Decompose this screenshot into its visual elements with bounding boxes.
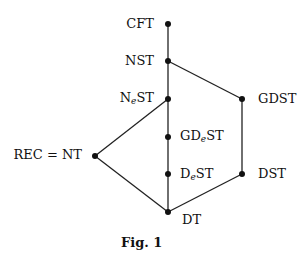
figure-caption: Fig. 1 xyxy=(121,235,162,250)
node-label-dst: DST xyxy=(258,167,286,181)
label-part: D xyxy=(180,166,190,181)
label-part: N xyxy=(120,90,131,105)
node-label-gdst: GDST xyxy=(258,92,296,106)
label-part: ST xyxy=(206,128,224,143)
node-label-rec: REC = NT xyxy=(14,148,82,162)
node-dot-gdest xyxy=(165,134,171,140)
label-part: ST xyxy=(196,166,214,181)
node-dot-dest xyxy=(165,171,171,177)
node-label-nst: NST xyxy=(125,54,154,68)
node-label-dest: DeST xyxy=(180,167,213,184)
node-label-dt: DT xyxy=(182,213,201,227)
label-part: ST xyxy=(136,90,154,105)
edge-rec-dt xyxy=(95,156,168,212)
edge-nst-gdst xyxy=(168,61,242,99)
node-dot-nest xyxy=(165,96,171,102)
lattice-diagram xyxy=(0,0,306,257)
node-dot-nst xyxy=(165,58,171,64)
node-label-nest: NeST xyxy=(120,91,154,108)
node-dot-dst xyxy=(239,171,245,177)
node-label-cft: CFT xyxy=(126,17,154,31)
node-dot-cft xyxy=(165,21,171,27)
node-label-gdest: GDeST xyxy=(180,129,224,146)
label-part: GD xyxy=(180,128,201,143)
node-dot-dt xyxy=(165,209,171,215)
node-dot-rec xyxy=(92,153,98,159)
node-dot-gdst xyxy=(239,96,245,102)
